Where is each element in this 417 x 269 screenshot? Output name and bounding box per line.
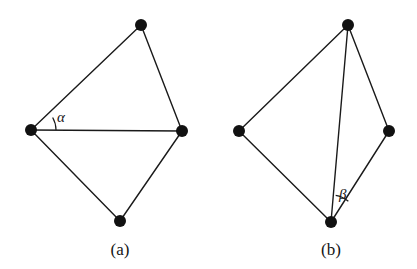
angle-label-a: α: [57, 109, 66, 125]
figure-container: α(a) β(b): [0, 0, 417, 269]
edge-right-bottom: [120, 131, 182, 221]
vertex-dot-left: [233, 125, 245, 137]
panel-caption-a: (a): [111, 240, 130, 259]
edge-right-bottom: [331, 131, 389, 222]
edge-top-right: [348, 25, 389, 131]
vertex-dot-left: [25, 124, 37, 136]
edge-bottom-left: [31, 130, 120, 221]
vertex-dot-top: [342, 19, 354, 31]
vertex-dot-bottom: [325, 216, 337, 228]
geometry-figure: α(a) β(b): [0, 0, 417, 269]
vertex-dot-bottom: [114, 215, 126, 227]
angle-arc-a: [53, 118, 56, 131]
panel-caption-b: (b): [321, 240, 341, 259]
edge-left-top: [239, 25, 348, 131]
vertex-dot-right: [383, 125, 395, 137]
vertex-dot-top: [135, 19, 147, 31]
panel-b: β(b): [233, 19, 395, 259]
panel-a: α(a): [25, 19, 188, 259]
edge-bottom-left: [239, 131, 331, 222]
diagonal-left-right: [31, 130, 182, 131]
edge-top-right: [141, 25, 182, 131]
edge-left-top: [31, 25, 141, 130]
angle-label-b: β: [338, 186, 347, 202]
vertex-dot-right: [176, 125, 188, 137]
